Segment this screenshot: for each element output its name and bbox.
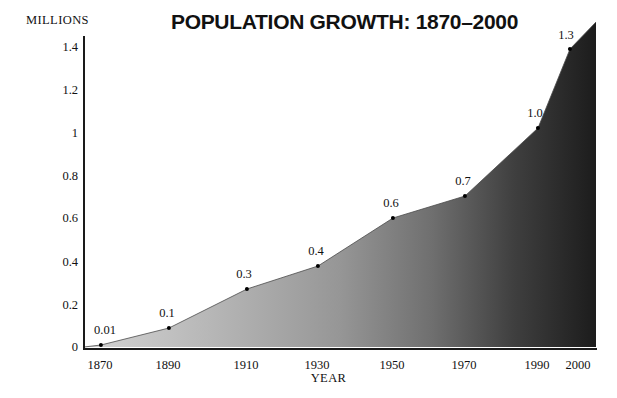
point-label-1870: 0.01	[94, 324, 116, 337]
y-tick-label: 1.4	[34, 41, 78, 54]
y-tick-1.4: 1.4	[34, 41, 78, 53]
area-series-outline	[84, 22, 596, 347]
y-tick-0.8: 0.8	[34, 170, 78, 182]
data-point-1930	[316, 264, 320, 268]
point-label-1890: 0.1	[159, 307, 175, 320]
data-point-1870	[99, 343, 103, 347]
chart-title: POPULATION GROWTH: 1870–2000	[0, 10, 617, 34]
y-tick-0.6: 0.6	[34, 212, 78, 224]
point-label-1950: 0.6	[383, 197, 399, 210]
x-tick-label: 1950	[380, 358, 405, 372]
y-tick-label: 0	[34, 341, 78, 354]
point-label-1930: 0.4	[308, 245, 324, 258]
x-tick-label: 2000	[566, 358, 591, 372]
y-tick-label: 0.4	[34, 256, 78, 269]
y-tick-label: 0.6	[34, 212, 78, 225]
x-tick-label: 1910	[234, 358, 259, 372]
x-axis-line	[83, 348, 597, 350]
point-label-1990: 1.0	[527, 107, 543, 120]
x-tick-label: 1890	[156, 358, 181, 372]
y-tick-0.2: 0.2	[34, 299, 78, 311]
y-axis-line	[83, 36, 85, 349]
area-series-polygon	[84, 22, 596, 347]
data-point-1950	[391, 216, 395, 220]
area-plot-svg	[0, 0, 617, 398]
data-point-1970	[463, 194, 467, 198]
data-point-1990	[536, 126, 540, 130]
point-label-2000: 1.3	[558, 29, 574, 42]
x-tick-label: 1990	[525, 358, 550, 372]
y-axis-caption: MILLIONS	[26, 13, 89, 28]
y-tick-1.2: 1.2	[34, 84, 78, 96]
x-tick-label: 1930	[305, 358, 330, 372]
y-tick-label: 0.8	[34, 170, 78, 183]
data-point-1910	[245, 287, 249, 291]
x-tick-label: 1970	[452, 358, 477, 372]
y-tick-1: 1	[34, 127, 78, 139]
y-tick-label: 1.2	[34, 84, 78, 97]
data-point-1890	[167, 326, 171, 330]
population-growth-chart: POPULATION GROWTH: 1870–2000 MILLIONS 1.…	[0, 0, 617, 398]
point-label-1970: 0.7	[455, 175, 471, 188]
x-axis-caption: YEAR	[0, 371, 617, 386]
y-tick-label: 0.2	[34, 299, 78, 312]
y-tick-label: 1	[34, 127, 78, 140]
data-point-2000	[568, 47, 572, 51]
y-tick-0: 0	[34, 341, 78, 353]
x-tick-label: 1870	[88, 358, 113, 372]
point-label-1910: 0.3	[236, 268, 252, 281]
y-tick-0.4: 0.4	[34, 256, 78, 268]
